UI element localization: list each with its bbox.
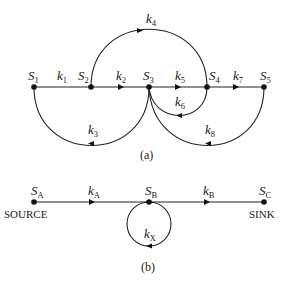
reaction-network-figure: S1 S2 S3 S4 S5 k1 k2 k3 k4 k5 k6 k7 k8 (… bbox=[0, 0, 290, 284]
node-s3 bbox=[146, 84, 152, 90]
label-s3: S3 bbox=[143, 68, 154, 85]
node-sb bbox=[146, 199, 152, 205]
label-s2: S2 bbox=[78, 68, 89, 85]
label-sb: SB bbox=[145, 183, 158, 200]
label-sa: SA bbox=[31, 183, 45, 200]
caption-b: (b) bbox=[141, 260, 155, 274]
arrow-k6-icon bbox=[176, 113, 182, 118]
label-sc: SC bbox=[259, 183, 272, 200]
label-s1: S1 bbox=[28, 68, 39, 85]
label-kx: kX bbox=[144, 226, 156, 243]
node-s2 bbox=[88, 84, 94, 90]
arrow-kx-icon bbox=[146, 244, 152, 249]
label-k5: k5 bbox=[175, 68, 185, 85]
node-s1 bbox=[31, 84, 37, 90]
caption-a: (a) bbox=[140, 148, 153, 162]
diagram-b: SA SB SC kA kB kX SOURCE SINK (b) bbox=[4, 183, 275, 274]
label-kb: kB bbox=[203, 183, 215, 200]
label-k1: k1 bbox=[57, 68, 67, 85]
arrow-k4-icon bbox=[137, 28, 143, 33]
node-s4 bbox=[204, 84, 210, 90]
label-k2: k2 bbox=[116, 68, 126, 85]
label-k3: k3 bbox=[88, 122, 98, 139]
label-s5: S5 bbox=[260, 68, 271, 85]
source-label: SOURCE bbox=[4, 208, 48, 220]
sink-label: SINK bbox=[249, 208, 275, 220]
label-k8: k8 bbox=[205, 122, 215, 139]
label-ka: kA bbox=[88, 183, 101, 200]
node-sa bbox=[31, 199, 37, 205]
label-k6: k6 bbox=[175, 94, 185, 111]
node-sc bbox=[261, 199, 267, 205]
node-s5 bbox=[261, 84, 267, 90]
diagram-a: S1 S2 S3 S4 S5 k1 k2 k3 k4 k5 k6 k7 k8 (… bbox=[28, 11, 271, 162]
label-k7: k7 bbox=[233, 68, 243, 85]
label-s4: S4 bbox=[209, 68, 221, 85]
label-k4: k4 bbox=[146, 11, 157, 28]
